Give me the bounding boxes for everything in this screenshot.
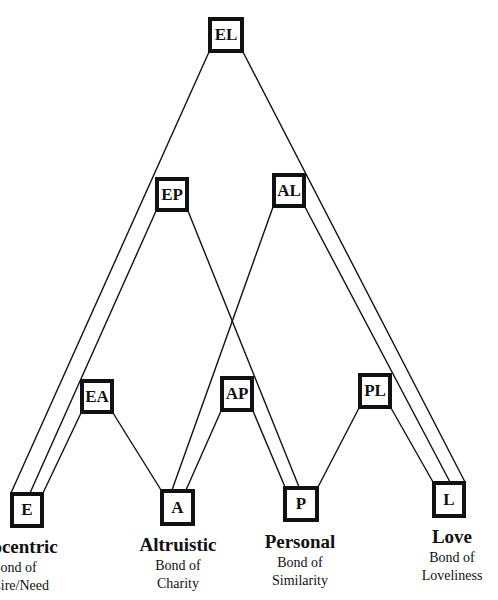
edge-al-a bbox=[172, 207, 273, 490]
caption-sub-2: Similarity bbox=[240, 573, 360, 589]
edge-group bbox=[11, 52, 465, 493]
caption-title: Love bbox=[392, 527, 498, 548]
caption-title: Egocentric bbox=[0, 537, 74, 558]
edge-ap-a bbox=[186, 411, 221, 490]
caption-sub-2: Charity bbox=[118, 576, 238, 592]
edge-ep-p bbox=[188, 211, 299, 487]
caption-sub-1: Bond of bbox=[240, 555, 360, 571]
node-a: A bbox=[160, 489, 195, 526]
node-p: P bbox=[283, 486, 319, 522]
edge-ea-e bbox=[43, 413, 81, 493]
caption-sub-1: Bond of bbox=[118, 558, 238, 574]
caption-sub-1: Bond of bbox=[392, 550, 498, 566]
node-al: AL bbox=[272, 173, 306, 208]
caption-sub-1: Bond of bbox=[0, 560, 74, 576]
edge-el-e bbox=[11, 52, 209, 493]
caption-title: Altruistic bbox=[118, 535, 238, 556]
caption-altruistic: Altruistic Bond of Charity bbox=[118, 535, 238, 592]
caption-title: Personal bbox=[240, 532, 360, 553]
node-ea: EA bbox=[80, 379, 114, 414]
node-ap: AP bbox=[220, 376, 254, 412]
lattice-diagram bbox=[0, 0, 498, 600]
node-ep: EP bbox=[155, 177, 189, 212]
edge-ea-a bbox=[113, 413, 161, 490]
caption-love: Love Bond of Loveliness bbox=[392, 527, 498, 584]
edge-al-l bbox=[305, 207, 450, 482]
caption-egocentric: Egocentric Bond of Desire/Need bbox=[0, 537, 74, 594]
node-l: L bbox=[432, 481, 466, 518]
node-e: E bbox=[10, 492, 44, 528]
caption-sub-2: Desire/Need bbox=[0, 578, 74, 594]
caption-sub-2: Loveliness bbox=[392, 568, 498, 584]
edge-pl-p bbox=[318, 408, 359, 487]
edge-ap-p bbox=[253, 411, 285, 487]
node-pl: PL bbox=[358, 373, 392, 409]
edge-pl-l bbox=[391, 408, 433, 482]
node-el: EL bbox=[208, 17, 244, 53]
caption-personal: Personal Bond of Similarity bbox=[240, 532, 360, 589]
